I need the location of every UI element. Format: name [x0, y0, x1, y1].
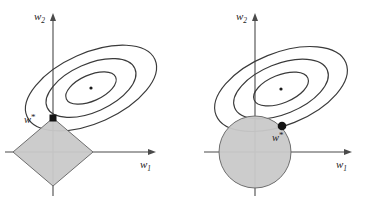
x-axis-arrowhead [344, 149, 352, 155]
contour-center-dot [89, 86, 92, 89]
regularization-figure: w* w2 w1 w* w2 w1 [0, 0, 372, 208]
x-axis-label-left: w1 [140, 158, 151, 173]
optimum-marker-circle [278, 122, 287, 131]
x-axis-arrowhead [148, 149, 156, 155]
y-axis-arrowhead [252, 13, 258, 21]
l1-constraint-panel: w* w2 w1 [0, 0, 186, 208]
optimum-label-left: w* [24, 112, 36, 125]
l2-constraint-panel: w* w2 w1 [186, 0, 372, 208]
x-axis-label-right: w1 [336, 158, 347, 173]
contour-center-dot [279, 87, 282, 90]
y-axis-label-right: w2 [236, 10, 247, 25]
optimum-marker-square [50, 115, 57, 122]
y-axis-label-left: w2 [34, 10, 45, 25]
y-axis-arrowhead [50, 13, 56, 21]
